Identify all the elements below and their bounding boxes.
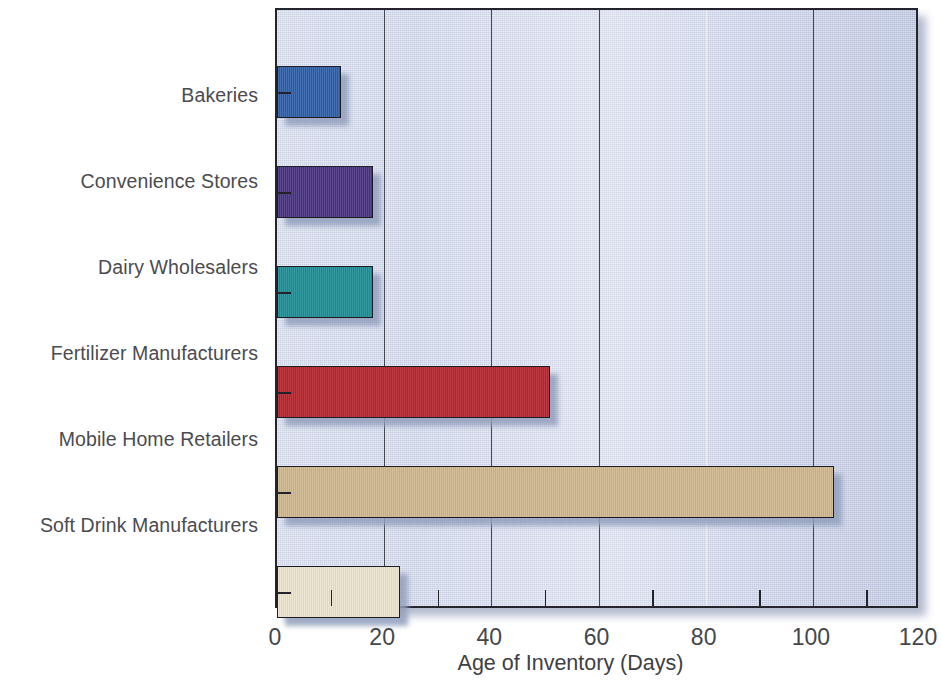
x-minor-tick-90 bbox=[759, 590, 761, 606]
y-tick-2 bbox=[277, 292, 291, 294]
y-axis-category-labels: Bakeries Convenience Stores Dairy Wholes… bbox=[0, 0, 268, 613]
y-axis-label-5: Soft Drink Manufacturers bbox=[40, 514, 258, 537]
y-axis-label-2: Dairy Wholesalers bbox=[98, 256, 258, 279]
bar-texture bbox=[278, 567, 399, 617]
x-minor-tick-110 bbox=[866, 590, 868, 606]
bar-texture bbox=[278, 367, 549, 417]
x-tick-label-60: 60 bbox=[584, 624, 610, 651]
x-minor-tick-30 bbox=[438, 590, 440, 606]
x-tick-label-120: 120 bbox=[899, 624, 937, 651]
x-axis-tick-labels: 020406080100120 bbox=[0, 614, 941, 650]
x-tick-label-100: 100 bbox=[792, 624, 830, 651]
x-tick-label-40: 40 bbox=[477, 624, 503, 651]
bar-texture bbox=[278, 167, 372, 217]
bar-3 bbox=[277, 366, 550, 418]
bar-2 bbox=[277, 266, 373, 318]
bar-texture bbox=[278, 467, 833, 517]
y-tick-4 bbox=[277, 492, 291, 494]
y-tick-0 bbox=[277, 92, 291, 94]
x-tick-label-20: 20 bbox=[369, 624, 395, 651]
y-tick-3 bbox=[277, 392, 291, 394]
plot-area bbox=[275, 8, 918, 608]
x-axis-title: Age of Inventory (Days) bbox=[0, 651, 941, 676]
y-axis-label-3: Fertilizer Manufacturers bbox=[51, 342, 258, 365]
x-minor-tick-70 bbox=[652, 590, 654, 606]
y-tick-1 bbox=[277, 192, 291, 194]
y-axis-label-1: Convenience Stores bbox=[81, 170, 258, 193]
bar-5 bbox=[277, 566, 400, 618]
bar-1 bbox=[277, 166, 373, 218]
x-axis-title-text: Age of Inventory (Days) bbox=[458, 651, 684, 675]
bar-texture bbox=[278, 267, 372, 317]
y-axis-label-4: Mobile Home Retailers bbox=[59, 428, 258, 451]
x-tick-label-0: 0 bbox=[269, 624, 282, 651]
y-axis-label-0: Bakeries bbox=[181, 84, 258, 107]
bar-chart: Bakeries Convenience Stores Dairy Wholes… bbox=[0, 0, 941, 685]
x-minor-tick-10 bbox=[331, 590, 333, 606]
y-tick-5 bbox=[277, 592, 291, 594]
x-tick-label-80: 80 bbox=[691, 624, 717, 651]
bar-4 bbox=[277, 466, 834, 518]
x-minor-tick-50 bbox=[545, 590, 547, 606]
